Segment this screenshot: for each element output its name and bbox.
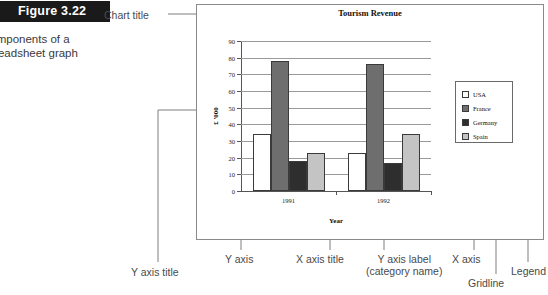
legend-swatch-icon bbox=[462, 91, 469, 98]
y-axis-tick-label: 90 bbox=[229, 38, 236, 45]
bar-germany-1991 bbox=[289, 161, 307, 191]
annotation-y-axis: Y axis bbox=[225, 253, 253, 265]
legend-label: Spain bbox=[473, 133, 488, 140]
y-axis-tick bbox=[237, 41, 241, 42]
gridline bbox=[241, 108, 431, 109]
y-axis-tick-label: 70 bbox=[229, 71, 236, 78]
bar-usa-1992 bbox=[348, 153, 366, 191]
y-axis-tick-label: 10 bbox=[229, 171, 236, 178]
y-axis-tick-label: 0 bbox=[232, 188, 235, 195]
annotation-y-axis-label: Y axis label (category name) bbox=[366, 253, 442, 277]
plot-area: £ '000 Year 0102030405060708090 19911992 bbox=[241, 41, 431, 191]
legend-item-usa: USA bbox=[462, 89, 486, 99]
y-axis-tick-label: 30 bbox=[229, 138, 236, 145]
bar-france-1992 bbox=[366, 64, 384, 191]
bar-spain-1991 bbox=[307, 153, 325, 191]
legend-label: USA bbox=[473, 91, 486, 98]
gridline bbox=[241, 124, 431, 125]
y-axis-tick bbox=[237, 191, 241, 192]
y-axis-tick bbox=[237, 74, 241, 75]
gridline bbox=[241, 91, 431, 92]
legend-item-france: France bbox=[462, 103, 491, 113]
gridline bbox=[241, 58, 431, 59]
annotation-chart-title: Chart title bbox=[104, 9, 149, 21]
legend-item-germany: Germany bbox=[462, 117, 497, 127]
y-axis-tick-label: 50 bbox=[229, 104, 236, 111]
legend-swatch-icon bbox=[462, 119, 469, 126]
y-axis-tick bbox=[237, 91, 241, 92]
gridline bbox=[241, 74, 431, 75]
chart-title: Tourism Revenue bbox=[197, 8, 543, 18]
bar-spain-1992 bbox=[402, 134, 420, 191]
legend-label: France bbox=[473, 105, 491, 112]
y-axis-tick-label: 80 bbox=[229, 54, 236, 61]
x-axis-category-label: 1991 bbox=[282, 197, 295, 204]
y-axis-tick bbox=[237, 174, 241, 175]
y-axis-tick bbox=[237, 124, 241, 125]
figure-number-tab: Figure 3.22 bbox=[0, 1, 110, 22]
x-axis-category-label: 1992 bbox=[377, 197, 390, 204]
annotation-legend: Legend bbox=[511, 265, 546, 277]
figure-number-label: Figure 3.22 bbox=[18, 4, 86, 18]
y-axis-tick bbox=[237, 141, 241, 142]
bar-usa-1991 bbox=[253, 134, 271, 191]
chart-container: Tourism Revenue £ '000 Year 010203040506… bbox=[196, 4, 544, 240]
y-axis-tick bbox=[237, 158, 241, 159]
annotation-x-axis-title: X axis title bbox=[296, 253, 344, 265]
bar-france-1991 bbox=[271, 61, 289, 191]
y-axis-tick-label: 40 bbox=[229, 121, 236, 128]
x-axis-tick bbox=[336, 191, 337, 195]
x-axis-tick bbox=[431, 191, 432, 195]
legend: USAFranceGermanySpain bbox=[455, 81, 513, 143]
legend-swatch-icon bbox=[462, 133, 469, 140]
legend-label: Germany bbox=[473, 119, 497, 126]
y-axis-tick-label: 20 bbox=[229, 154, 236, 161]
gridline bbox=[241, 41, 431, 42]
figure-caption: Components of a spreadsheet graph bbox=[0, 32, 122, 60]
annotation-gridline: Gridline bbox=[468, 277, 504, 289]
legend-swatch-icon bbox=[462, 105, 469, 112]
annotation-x-axis: X axis bbox=[452, 253, 481, 265]
bar-germany-1992 bbox=[384, 163, 402, 191]
y-axis-line bbox=[241, 41, 242, 191]
y-axis-title: £ '000 bbox=[212, 107, 220, 125]
annotation-y-axis-title: Y axis title bbox=[131, 266, 179, 278]
y-axis-tick-label: 60 bbox=[229, 88, 236, 95]
x-axis-title: Year bbox=[241, 217, 431, 225]
y-axis-tick bbox=[237, 108, 241, 109]
legend-item-spain: Spain bbox=[462, 131, 488, 141]
y-axis-tick bbox=[237, 58, 241, 59]
figure-panel: Figure 3.22 Components of a spreadsheet … bbox=[0, 0, 548, 295]
